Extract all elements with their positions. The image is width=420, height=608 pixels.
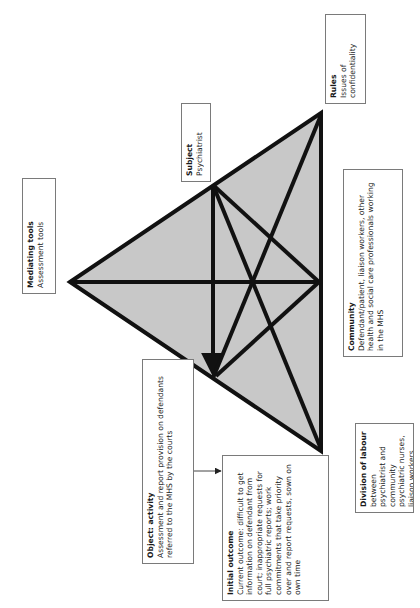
community-title: Community xyxy=(347,175,357,351)
object-body: Assessment and report provision on defen… xyxy=(156,365,175,558)
object-title: Object: activity xyxy=(146,365,156,558)
mediating-tools-box: Mediating tools Assessment tools xyxy=(22,178,56,294)
subject-title: Subject xyxy=(185,109,195,176)
division-of-labour-body: between psychiatrist and community psych… xyxy=(369,429,414,507)
subject-body: Psychiatrist xyxy=(195,109,205,176)
rules-title: Rules xyxy=(329,20,339,98)
mediating-tools-title: Mediating tools xyxy=(26,184,36,288)
initial-outcome-title: Initial outcome xyxy=(226,461,236,595)
community-body: Defendant/patient, liaison workers, othe… xyxy=(357,175,386,351)
object-box: Object: activity Assessment and report p… xyxy=(142,359,194,564)
division-of-labour-title: Division of labour xyxy=(359,429,369,507)
initial-outcome-body: Current outcome: difficult to get inform… xyxy=(236,461,303,595)
rules-box: Rules Issues of confidentiality xyxy=(325,14,366,104)
community-box: Community Defendant/patient, liaison wor… xyxy=(343,169,403,357)
subject-box: Subject Psychiatrist xyxy=(181,103,211,182)
division-of-labour-box: Division of labour between psychiatrist … xyxy=(355,423,414,513)
mediating-tools-body: Assessment tools xyxy=(36,184,46,288)
initial-outcome-box: Initial outcome Current outcome: difficu… xyxy=(222,455,329,601)
rules-body: Issues of confidentiality xyxy=(339,20,358,98)
